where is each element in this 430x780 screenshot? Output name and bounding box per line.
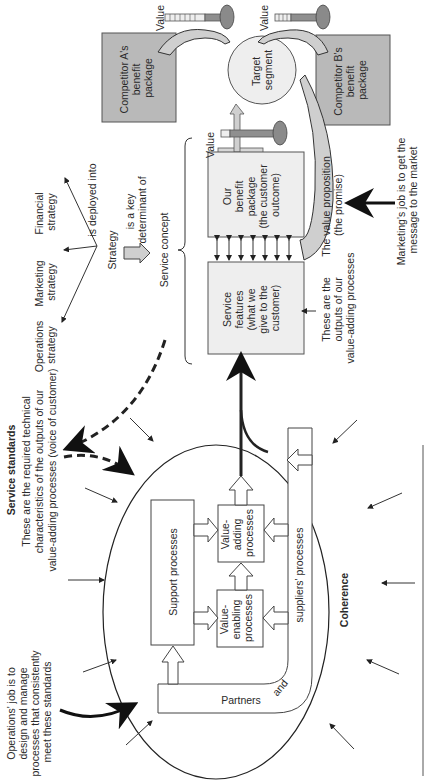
value-label-a: Value — [154, 5, 166, 31]
determinant-arrow-icon — [124, 243, 150, 263]
service-concept-diagram: Financial strategy Marketing strategy Op… — [0, 0, 430, 780]
key-determinant-label: is a key determinant of — [124, 176, 148, 243]
gauge-bulb-icon — [273, 121, 287, 145]
support-to-value-enabling-arrow — [194, 606, 218, 630]
partners-to-support-arrow — [162, 646, 184, 684]
service-standards-description: These are the required technical charact… — [20, 368, 58, 571]
suppliers-label: suppliers' processes — [293, 528, 305, 623]
value-gauge-b: Value — [258, 5, 330, 31]
suppliers-output-curve — [241, 410, 268, 452]
gauge-bulb-icon — [220, 5, 234, 29]
service-concept-brace — [178, 138, 192, 364]
operations-job-note: Operations' job is to design and manage … — [5, 648, 53, 777]
suppliers-to-value-enabling-arrow — [263, 606, 288, 630]
service-concept-label: Service concept — [158, 213, 170, 288]
service-standards-title: Service standards — [5, 425, 17, 516]
partners-label: Partners — [221, 694, 261, 706]
standards-to-processes-arrow — [64, 455, 130, 472]
marketing-job-note: Marketing's job is to get the message to… — [395, 135, 419, 265]
value-label-b: Value — [258, 5, 270, 31]
support-to-value-adding-arrow — [194, 518, 218, 542]
strategy-tree: Financial strategy Marketing strategy Op… — [33, 163, 170, 372]
strategy-label: Strategy — [106, 230, 118, 270]
value-label-ours: Value — [204, 132, 216, 158]
operations-job-arrow — [60, 705, 133, 716]
gauge-bulb-icon — [316, 5, 330, 29]
financial-strategy-label: Financial strategy — [33, 190, 57, 235]
outputs-note: These are the outputs of our value-addin… — [320, 253, 356, 364]
deployed-into-label: is deployed into — [86, 163, 98, 236]
up-arrow-to-target-icon — [230, 104, 244, 152]
marketing-strategy-label: Marketing strategy — [33, 257, 57, 306]
value-enabling-to-value-adding-arrow — [229, 563, 253, 590]
value-gauge-a: Value — [154, 5, 234, 31]
operations-strategy-label: Operations strategy — [33, 318, 57, 372]
suppliers-to-value-adding-arrow — [264, 518, 288, 542]
coherence-label: Coherence — [338, 573, 350, 627]
service-features-label: Service features (what we give to the cu… — [221, 282, 281, 333]
target-segment-label: Target segment — [250, 50, 274, 90]
service-concept-to-standards-arrow — [68, 340, 165, 448]
feature-benefit-arrows — [217, 240, 289, 260]
support-processes-label: Support processes — [167, 528, 179, 616]
value-adding-output-arrow — [229, 476, 253, 505]
